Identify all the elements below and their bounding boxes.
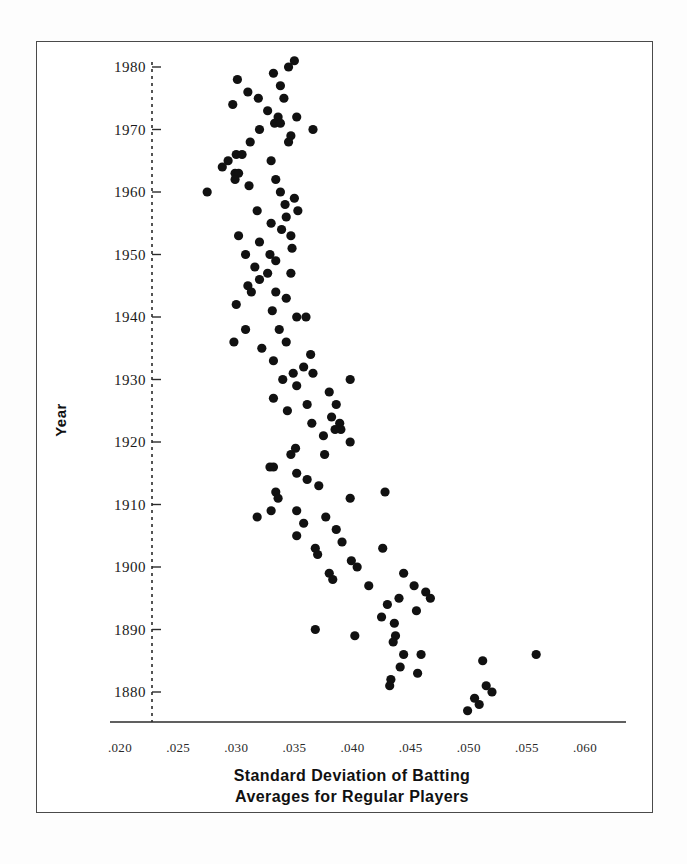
data-point xyxy=(399,569,408,578)
data-point xyxy=(399,650,408,659)
data-point xyxy=(282,294,291,303)
y-tick-label: 1880 xyxy=(114,684,146,700)
data-point xyxy=(303,475,312,484)
data-point xyxy=(396,662,405,671)
data-point xyxy=(412,606,421,615)
data-point xyxy=(269,69,278,78)
data-point xyxy=(426,594,435,603)
data-point xyxy=(487,687,496,696)
data-point xyxy=(416,650,425,659)
data-point xyxy=(276,187,285,196)
data-point xyxy=(241,325,250,334)
data-point xyxy=(282,212,291,221)
data-point xyxy=(306,350,315,359)
data-point xyxy=(346,437,355,446)
data-points-layer xyxy=(203,56,541,715)
data-point xyxy=(314,481,323,490)
data-point xyxy=(250,262,259,271)
data-point xyxy=(268,306,277,315)
data-point xyxy=(267,156,276,165)
data-point xyxy=(274,494,283,503)
data-point xyxy=(478,656,487,665)
data-point xyxy=(463,706,472,715)
data-point xyxy=(241,250,250,259)
data-point xyxy=(284,62,293,71)
data-point xyxy=(218,162,227,171)
data-point xyxy=(244,181,253,190)
data-point xyxy=(346,494,355,503)
data-point xyxy=(332,400,341,409)
data-point xyxy=(311,625,320,634)
data-point xyxy=(328,575,337,584)
x-tick-label: .035 xyxy=(282,740,306,755)
data-point xyxy=(293,206,302,215)
data-point xyxy=(532,650,541,659)
data-point xyxy=(271,256,280,265)
data-point xyxy=(287,244,296,253)
data-point xyxy=(292,469,301,478)
data-point xyxy=(299,519,308,528)
data-point xyxy=(325,387,334,396)
data-point xyxy=(307,419,316,428)
data-point xyxy=(267,506,276,515)
x-tick-label: .020 xyxy=(108,740,132,755)
data-point xyxy=(320,450,329,459)
data-point xyxy=(313,550,322,559)
data-point xyxy=(237,150,246,159)
y-tick-label: 1960 xyxy=(114,184,146,200)
data-point xyxy=(247,287,256,296)
data-point xyxy=(269,356,278,365)
data-point xyxy=(380,487,389,496)
data-point xyxy=(255,237,264,246)
data-point xyxy=(350,631,359,640)
data-point xyxy=(321,512,330,521)
y-tick-label: 1910 xyxy=(114,497,146,513)
data-point xyxy=(255,275,264,284)
data-point xyxy=(232,300,241,309)
data-point xyxy=(389,637,398,646)
data-point xyxy=(289,369,298,378)
data-point xyxy=(292,531,301,540)
data-point xyxy=(255,125,264,134)
data-point xyxy=(276,119,285,128)
y-tick-label: 1900 xyxy=(114,559,146,575)
data-point xyxy=(271,287,280,296)
data-point xyxy=(267,219,276,228)
data-point xyxy=(246,137,255,146)
scatter-plot: 1980197019601950194019301920191019001890… xyxy=(0,0,687,864)
x-axis-ticks: .020.025.030.035.040.045.050.055.060 xyxy=(108,740,597,755)
data-point xyxy=(290,194,299,203)
data-point xyxy=(286,231,295,240)
data-point xyxy=(228,100,237,109)
data-point xyxy=(286,450,295,459)
data-point xyxy=(413,669,422,678)
data-point xyxy=(277,225,286,234)
data-point xyxy=(301,312,310,321)
data-point xyxy=(271,175,280,184)
y-tick-label: 1920 xyxy=(114,434,146,450)
data-point xyxy=(410,581,419,590)
x-tick-label: .060 xyxy=(573,740,597,755)
data-point xyxy=(263,269,272,278)
y-tick-label: 1950 xyxy=(114,247,146,263)
data-point xyxy=(332,525,341,534)
data-point xyxy=(269,394,278,403)
data-point xyxy=(253,512,262,521)
data-point xyxy=(364,581,373,590)
data-point xyxy=(383,600,392,609)
data-point xyxy=(337,537,346,546)
x-axis-title-line1: Standard Deviation of Batting xyxy=(234,767,471,784)
data-point xyxy=(253,206,262,215)
data-point xyxy=(229,337,238,346)
data-point xyxy=(282,337,291,346)
data-point xyxy=(286,269,295,278)
x-tick-label: .040 xyxy=(341,740,365,755)
data-point xyxy=(353,562,362,571)
data-point xyxy=(292,112,301,121)
data-point xyxy=(203,187,212,196)
data-point xyxy=(319,431,328,440)
x-tick-label: .055 xyxy=(515,740,539,755)
data-point xyxy=(308,369,317,378)
data-point xyxy=(299,362,308,371)
y-tick-label: 1890 xyxy=(114,622,146,638)
